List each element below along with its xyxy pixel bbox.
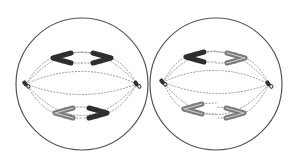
cell-membrane: [150, 18, 282, 150]
spindle-fiber: [26, 84, 137, 95]
spindle-fibers: [163, 51, 269, 118]
chromosome-lower-left: [184, 104, 202, 114]
spindle-fiber: [163, 70, 269, 84]
chromosome-upper-left: [186, 52, 204, 62]
chromosome-upper-right: [227, 53, 245, 63]
spindle-fiber: [26, 53, 137, 85]
cell-left: [16, 18, 148, 150]
spindle-fiber: [26, 71, 137, 84]
kinetochore-fiber: [26, 58, 53, 84]
diagram-canvas: [0, 0, 293, 153]
spindle-fiber: [163, 82, 269, 94]
spindle-fiber: [163, 51, 269, 84]
cell-membrane: [16, 18, 148, 150]
chromosome-upper-left: [53, 53, 71, 63]
chromosome-lower-right: [89, 108, 107, 118]
spindle-fiber: [163, 82, 269, 115]
cell-right: [150, 18, 282, 150]
chromosome-lower-left: [55, 108, 73, 118]
spindle-fibers: [26, 52, 137, 118]
spindle-fiber: [26, 84, 137, 116]
cell-division-diagram: [0, 0, 293, 153]
chromosome-upper-right: [93, 53, 111, 63]
centriole-icon: [133, 80, 142, 90]
